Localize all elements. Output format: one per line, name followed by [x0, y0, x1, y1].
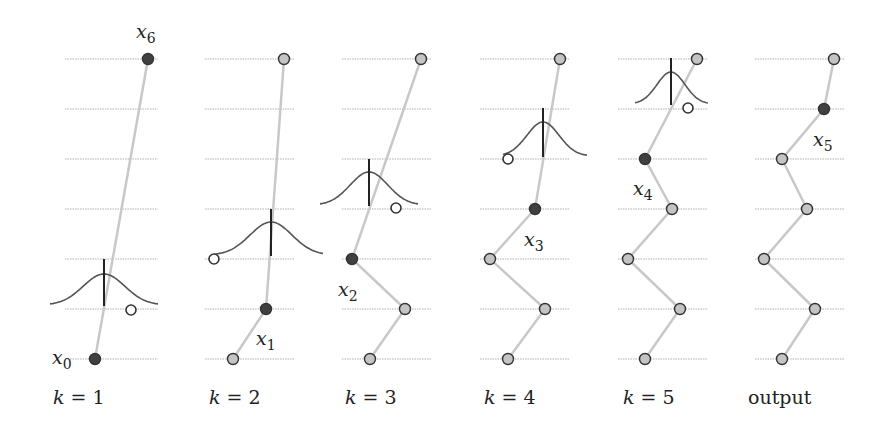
sample-point: [228, 354, 239, 365]
gaussian-curve: [214, 222, 323, 254]
panel-label-output: output: [748, 386, 811, 408]
sample-point: [675, 304, 686, 315]
sample-point: [810, 304, 821, 315]
fixed-point: [640, 154, 651, 165]
point-label-x1: x1: [256, 327, 276, 353]
proposal-circle: [209, 254, 219, 264]
sample-point: [829, 54, 840, 65]
fixed-point: [143, 54, 154, 65]
fixed-point: [90, 354, 101, 365]
point-label-x2: x2: [338, 278, 358, 304]
point-label-x5: x5: [813, 128, 833, 154]
fixed-point: [261, 304, 272, 315]
sample-point: [777, 154, 788, 165]
sample-point: [416, 54, 427, 65]
sample-point: [279, 54, 290, 65]
sample-point: [802, 204, 813, 215]
sample-point: [503, 354, 514, 365]
sample-point: [485, 254, 496, 265]
proposal-circle: [503, 154, 513, 164]
proposal-circle: [391, 203, 401, 213]
sample-point: [640, 354, 651, 365]
fixed-point: [530, 204, 541, 215]
sample-point: [540, 304, 551, 315]
point-label-x0: x0: [52, 346, 72, 372]
proposal-circle: [126, 305, 136, 315]
proposal-circle: [683, 103, 693, 113]
sample-point: [759, 254, 770, 265]
panel-label-1: k = 1: [53, 386, 105, 408]
sample-point: [365, 354, 376, 365]
fixed-point: [819, 104, 830, 115]
sample-point: [400, 304, 411, 315]
sample-point: [667, 204, 678, 215]
panel-label-3: k = 3: [345, 386, 397, 408]
diagram-canvas: [0, 0, 873, 433]
sample-point: [623, 254, 634, 265]
panel-label-4: k = 4: [484, 386, 536, 408]
sample-point: [555, 54, 566, 65]
panel-label-5: k = 5: [623, 386, 675, 408]
point-label-x3: x3: [524, 228, 544, 254]
point-label-x6: x6: [136, 20, 156, 46]
fixed-point: [347, 254, 358, 265]
sample-point: [692, 54, 703, 65]
panel-label-2: k = 2: [209, 386, 261, 408]
point-label-x4: x4: [633, 177, 653, 203]
sequential-sampling-figure: x6x0k = 1x1k = 2x2k = 3x3k = 4x4k = 5x5o…: [0, 0, 873, 433]
sample-point: [777, 354, 788, 365]
